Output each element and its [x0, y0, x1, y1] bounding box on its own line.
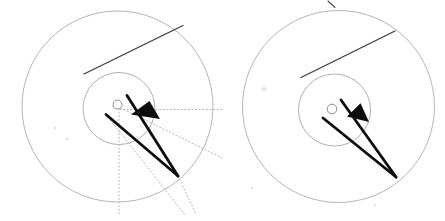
dot-speck — [251, 187, 253, 189]
scanned-figure — [0, 0, 445, 221]
tangent-line — [301, 31, 395, 78]
tangent-line — [84, 26, 183, 75]
dot-speck — [54, 127, 56, 129]
dotted-guide-line — [178, 176, 197, 215]
dot-speck — [66, 138, 68, 140]
dial-panel-left-dial — [22, 11, 223, 215]
outer-circle — [243, 11, 435, 203]
hub-circle — [327, 104, 337, 114]
hub-circle — [113, 100, 122, 109]
plus-speck — [262, 87, 267, 92]
dial-panel-right-dial — [243, 1, 435, 206]
figure-canvas — [0, 0, 445, 221]
top-tick — [328, 1, 335, 8]
clock-hand — [106, 115, 178, 177]
dot-speck — [374, 204, 376, 206]
dotted-guide-line — [121, 108, 222, 158]
dotted-guide-line — [106, 115, 185, 216]
